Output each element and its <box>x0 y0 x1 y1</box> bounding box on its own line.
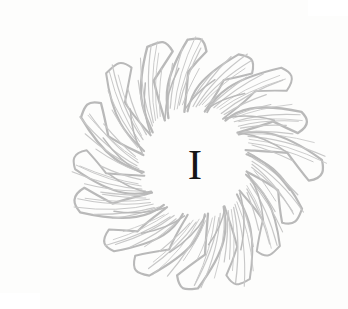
dropcap-ornament-figure: I <box>40 16 348 309</box>
sunburst-ornament-svg: I <box>40 16 348 309</box>
dropcap-letter-I: I <box>188 141 202 188</box>
